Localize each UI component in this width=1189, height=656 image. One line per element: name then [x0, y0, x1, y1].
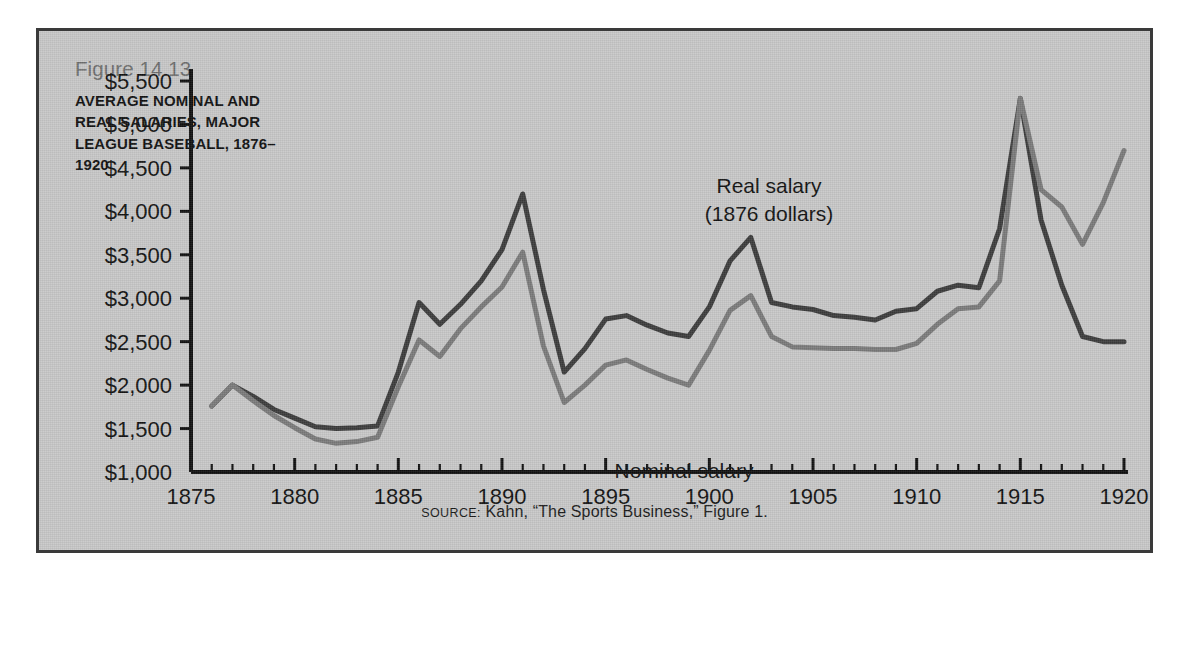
figure-panel: Figure 14.13 AVERAGE NOMINAL AND REAL SA… [36, 28, 1153, 553]
y-tick-label: $3,000 [105, 286, 172, 311]
y-tick-label: $2,500 [105, 330, 172, 355]
chart-area: $1,000$1,500$2,000$2,500$3,000$3,500$4,0… [39, 31, 1150, 550]
y-tick-label: $5,000 [105, 112, 172, 137]
figure-page: Figure 14.13 AVERAGE NOMINAL AND REAL SA… [0, 0, 1189, 656]
y-tick-label: $4,500 [105, 156, 172, 181]
line-chart: $1,000$1,500$2,000$2,500$3,000$3,500$4,0… [39, 31, 1150, 550]
chart-annotations: Real salary(1876 dollars)Nominal salary [615, 174, 834, 482]
y-axis-labels: $1,000$1,500$2,000$2,500$3,000$3,500$4,0… [105, 69, 172, 485]
real-salary-label: (1876 dollars) [705, 202, 833, 225]
source-label: SOURCE: [421, 506, 481, 520]
real-salary-label: Real salary [716, 174, 822, 197]
y-tick-label: $3,500 [105, 243, 172, 268]
y-tick-label: $1,000 [105, 460, 172, 485]
y-tick-label: $5,500 [105, 69, 172, 94]
source-note: SOURCE: Kahn, “The Sports Business,” Fig… [39, 503, 1150, 521]
y-tick-label: $4,000 [105, 199, 172, 224]
nominal-salary-label: Nominal salary [615, 459, 754, 482]
y-tick-label: $2,000 [105, 373, 172, 398]
data-series-group [212, 98, 1124, 443]
y-tick-label: $1,500 [105, 417, 172, 442]
source-text: Kahn, “The Sports Business,” Figure 1. [481, 503, 768, 520]
